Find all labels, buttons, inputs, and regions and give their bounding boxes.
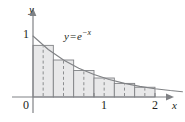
curve-equation-equals: = (69, 30, 77, 42)
y-axis-label: y (29, 4, 34, 15)
y-tick-label-1: 1 (23, 28, 29, 40)
curve-equation-label: y=e−x (64, 29, 91, 42)
midpoint-rule-riemann-sum-figure: y x 1 0 1 2 y=e−x (0, 0, 185, 122)
riemann-rectangles-group (33, 45, 155, 97)
origin-label: 0 (23, 99, 29, 111)
curve-equation-exponent: −x (82, 28, 91, 37)
x-tick-label-1: 1 (101, 99, 107, 111)
x-axis-label: x (172, 100, 177, 111)
x-tick-label-2: 2 (152, 99, 158, 111)
